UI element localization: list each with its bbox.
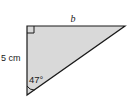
angle-label-47: 47° [29,74,44,85]
triangle-diagram: b 5 cm 47° [0,0,131,103]
side-label-b: b [71,13,76,24]
side-label-5cm: 5 cm [1,53,21,63]
